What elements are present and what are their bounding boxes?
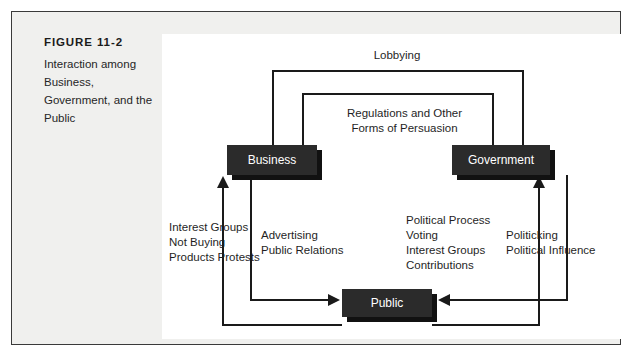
business-to-public-horizontal [250,299,334,301]
figure-caption-text: Interaction among Business, Government, … [44,55,154,127]
flow-label-business-to-public: Advertising Public Relations [261,228,356,258]
business-to-public-arrowhead [328,294,340,306]
node-public[interactable]: Public [342,289,432,317]
flow-label-public-to-business: Interest Groups Not Buying Products Prot… [169,220,269,265]
public-to-government-arrowhead [533,176,545,188]
figure-frame: FIGURE 11-2 Interaction among Business, … [11,11,621,345]
lobbying-line-top-horizontal [272,70,524,72]
government-to-public-arrowhead [438,294,450,306]
flow-label-government-to-public: Politicking Political Influence [506,228,616,258]
diagram-panel: Lobbying Regulations and Other Forms of … [162,34,621,339]
node-public-label: Public [371,296,404,310]
figure-caption-block: FIGURE 11-2 Interaction among Business, … [44,34,154,127]
node-business-label: Business [248,153,297,167]
regulations-line-left-vertical [302,93,304,152]
public-to-government-bottom-horizontal [432,324,540,326]
node-government[interactable]: Government [452,145,550,175]
figure-number: FIGURE 11-2 [44,34,154,50]
lobbying-line-right-vertical [522,70,524,152]
regulations-line-top-horizontal [302,93,494,95]
figure-screenshot: FIGURE 11-2 Interaction among Business, … [0,0,633,357]
node-business[interactable]: Business [227,145,317,175]
flow-label-public-to-government: Political Process Voting Interest Groups… [406,213,501,273]
public-to-business-bottom-horizontal [222,324,342,326]
node-government-label: Government [468,153,534,167]
government-to-public-horizontal [444,299,568,301]
flow-label-regulations: Regulations and Other Forms of Persuasio… [322,106,487,136]
flow-label-lobbying: Lobbying [312,48,482,63]
public-to-business-arrowhead [217,176,229,188]
